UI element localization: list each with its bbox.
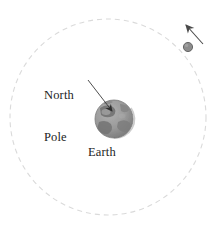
earth-sphere <box>95 100 135 138</box>
orbit-diagram: North Pole Earth <box>0 0 220 230</box>
diagram-canvas <box>0 0 220 230</box>
north-pole-label-line1: North <box>44 88 74 102</box>
orbital-motion-arrow <box>186 25 203 44</box>
north-pole-label-line2: Pole <box>44 130 74 144</box>
earth-label: Earth <box>88 145 116 159</box>
north-pole-label: North Pole <box>44 60 74 172</box>
satellite-body <box>183 42 192 51</box>
